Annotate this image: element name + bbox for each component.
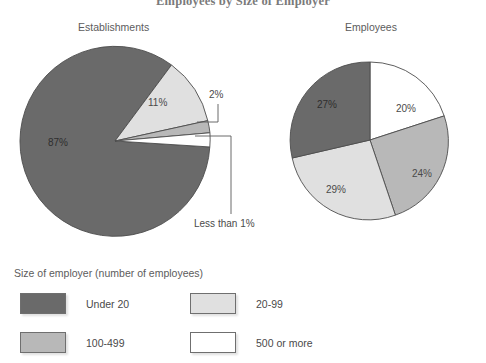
legend-label-500-or-more: 500 or more [256, 337, 313, 349]
label-employees-under20: 27% [317, 99, 337, 110]
legend-label-100-499: 100-499 [86, 337, 125, 349]
legend-label-under-20: Under 20 [86, 298, 129, 310]
chart-root: Employees by Size of Employer Establishm… [0, 0, 486, 363]
legend-swatch-100-499 [20, 332, 66, 353]
legend-item-100-499[interactable]: 100-499 [20, 332, 125, 353]
label-employees-20-99: 29% [326, 184, 346, 195]
label-establishments-20-99: 11% [148, 97, 167, 108]
pie-employees [290, 62, 448, 220]
legend-swatch-under-20 [20, 293, 66, 314]
legend-swatch-500-or-more [190, 332, 236, 353]
legend-label-20-99: 20-99 [256, 298, 283, 310]
label-employees-500plus: 20% [396, 103, 416, 114]
label-establishments-500plus: Less than 1% [194, 218, 255, 229]
legend-item-under-20[interactable]: Under 20 [20, 293, 129, 314]
legend-item-20-99[interactable]: 20-99 [190, 293, 283, 314]
label-employees-100-499: 24% [412, 168, 432, 179]
legend-item-500-or-more[interactable]: 500 or more [190, 332, 313, 353]
label-establishments-100-499: 2% [209, 89, 223, 100]
label-establishments-under20: 87% [48, 137, 68, 148]
legend-swatch-20-99 [190, 293, 236, 314]
legend-title: Size of employer (number of employees) [14, 267, 203, 279]
